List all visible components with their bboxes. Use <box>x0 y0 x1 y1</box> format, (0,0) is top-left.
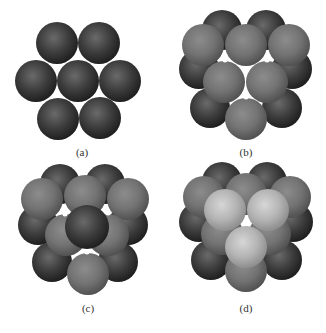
sphere-layer-diagram-d <box>0 0 326 333</box>
light-sphere <box>247 189 289 231</box>
panel-label-d: (d) <box>240 302 253 314</box>
light-sphere <box>225 226 267 268</box>
light-sphere <box>204 189 246 231</box>
